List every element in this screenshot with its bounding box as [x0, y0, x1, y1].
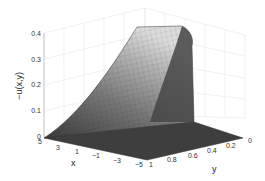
svg-text:0.8: 0.8: [167, 156, 177, 163]
y-axis-label: y: [212, 164, 217, 174]
svg-text:0.4: 0.4: [31, 30, 41, 37]
surface-plot: 0 0.1 0.2 0.3 0.4 −u(x,y) 5 3 1 −1 −3 −5…: [0, 0, 265, 181]
svg-text:0.2: 0.2: [226, 142, 236, 149]
svg-text:0.4: 0.4: [207, 147, 217, 154]
z-axis-label: −u(x,y): [14, 72, 24, 100]
svg-text:1: 1: [149, 161, 153, 168]
svg-text:0.3: 0.3: [31, 56, 41, 63]
svg-text:5: 5: [38, 138, 42, 145]
svg-text:−1: −1: [92, 152, 100, 159]
svg-text:−5: −5: [135, 161, 143, 168]
svg-text:0.6: 0.6: [188, 152, 198, 159]
svg-text:0.2: 0.2: [31, 81, 41, 88]
svg-text:−3: −3: [113, 157, 121, 164]
z-ticks: 0 0.1 0.2 0.3 0.4: [31, 30, 41, 140]
svg-text:3: 3: [56, 144, 60, 151]
x-axis-label: x: [71, 158, 76, 168]
svg-text:0.1: 0.1: [31, 107, 41, 114]
svg-text:1: 1: [75, 148, 79, 155]
svg-text:0: 0: [248, 137, 252, 144]
